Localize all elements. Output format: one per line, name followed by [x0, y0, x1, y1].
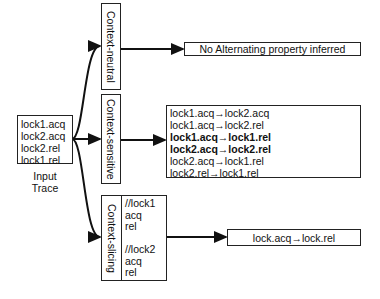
sensitive-result-line-bold: lock1.acq→lock1.rel [170, 131, 357, 143]
sensitive-result-line: lock2.rel→lock1.rel [170, 167, 357, 179]
sensitive-result-line-bold: lock2.acq→lock2.rel [170, 143, 357, 155]
slice-line: //lock2 [125, 244, 155, 256]
sensitive-result-line: lock1.acq→lock2.rel [170, 119, 357, 131]
slice-line: //lock1 [125, 198, 155, 210]
branch-arrow-neutral [72, 46, 100, 139]
neutral-result-box: No Alternating property inferred [184, 42, 361, 56]
input-line: lock1.rel [21, 154, 69, 166]
caption-line: Input [17, 170, 73, 182]
slicing-result-text: lock.acq→lock.rel [253, 232, 335, 244]
context-neutral-label: Context-neutral [106, 11, 117, 83]
context-slicing-box: Context-slicing //lock1 acq rel //lock2 … [101, 195, 167, 281]
slice-line: rel [125, 221, 155, 233]
context-neutral-box: Context-neutral [101, 3, 121, 90]
input-line: lock1.acq [21, 118, 69, 130]
context-sensitive-box: Context-sensitive [101, 94, 121, 184]
branch-arrow-slicing [72, 139, 100, 237]
input-trace-box: lock1.acq lock2.acq lock2.rel lock1.rel [17, 115, 73, 164]
sensitive-result-line: lock1.acq→lock2.acq [170, 107, 357, 119]
sensitive-result-box: lock1.acq→lock2.acq lock1.acq→lock2.rel … [166, 105, 361, 178]
slicing-result-box: lock.acq→lock.rel [227, 229, 361, 246]
slice-line: rel [125, 267, 155, 279]
caption-line: Trace [17, 182, 73, 194]
input-trace-caption: Input Trace [17, 170, 73, 194]
input-line: lock2.rel [21, 142, 69, 154]
context-slicing-label: Context-slicing [106, 204, 117, 273]
input-line: lock2.acq [21, 130, 69, 142]
context-sensitive-label: Context-sensitive [106, 99, 117, 180]
neutral-result-text: No Alternating property inferred [200, 43, 346, 55]
sensitive-result-line: lock2.acq→lock1.rel [170, 155, 357, 167]
